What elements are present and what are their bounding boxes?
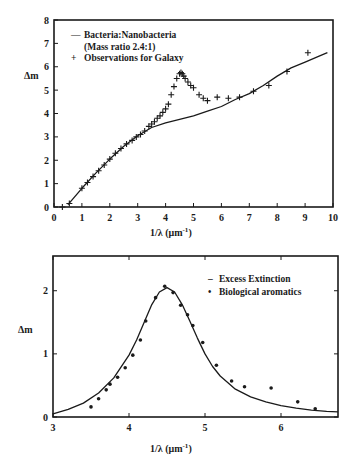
bottom-x-axis-label-main: 1/λ (μm bbox=[150, 443, 183, 455]
top-legend-plus-glyph: + bbox=[71, 53, 76, 63]
top-legend-line-glyph: — bbox=[70, 30, 81, 40]
bottom-x-axis-label: 1/λ (μm-1) bbox=[150, 442, 192, 455]
bottom-legend-line-label: Excess Extinction bbox=[219, 274, 291, 284]
chart-text-layer: Δm 1/λ (μm-1) — Bacteria:Nanobacteria (M… bbox=[0, 0, 354, 472]
bottom-legend-line-glyph: – bbox=[207, 274, 213, 284]
top-x-axis-label-end: ) bbox=[188, 227, 191, 239]
top-x-axis-label: 1/λ (μm-1) bbox=[150, 226, 192, 239]
top-x-axis-label-main: 1/λ (μm bbox=[150, 227, 183, 239]
top-legend-line-label: Bacteria:Nanobacteria bbox=[84, 30, 177, 40]
bottom-legend-dot-label: Biological aromatics bbox=[219, 287, 302, 297]
top-legend-plus-label: Observations for Galaxy bbox=[84, 53, 184, 63]
bottom-y-axis-label: Δm bbox=[18, 324, 33, 335]
top-y-axis-label: Δm bbox=[24, 70, 39, 81]
bottom-x-axis-label-end: ) bbox=[188, 443, 191, 455]
bottom-legend-dot-glyph: • bbox=[208, 287, 211, 297]
top-legend-line-sub: (Mass ratio 2.4:1) bbox=[84, 42, 156, 53]
